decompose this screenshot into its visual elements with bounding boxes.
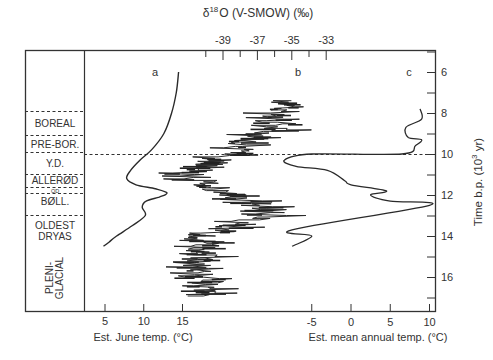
svg-text:8: 8	[441, 107, 447, 119]
bottom-axis-june-temp: 51015	[102, 304, 189, 327]
top-axis-label: δ18O (V-SMOW) (‰)	[203, 5, 314, 20]
svg-text:10: 10	[138, 315, 150, 327]
panel-label-a: a	[152, 66, 159, 78]
svg-text:-33: -33	[318, 34, 334, 46]
svg-text:10: 10	[423, 316, 435, 328]
svg-text:12: 12	[441, 189, 453, 201]
svg-text:5: 5	[387, 316, 393, 328]
bottom-axis-left-label: Est. June temp. (°C)	[93, 331, 192, 343]
svg-text:10: 10	[441, 148, 453, 160]
svg-text:14: 14	[441, 230, 453, 242]
right-axis-label: Time b.p. (103 yr)	[470, 138, 484, 227]
svg-text:5: 5	[102, 315, 108, 327]
top-axis-d18o: -39-37-35-33	[206, 34, 334, 60]
chronozone-label: OLDESTDRYAS	[35, 220, 75, 242]
chronozone-label: BØLL.	[41, 196, 69, 207]
svg-text:16: 16	[441, 271, 453, 283]
chronozone-label: BOREAL	[35, 118, 76, 129]
svg-text:0: 0	[348, 316, 354, 328]
right-axis-time: 6810121416	[427, 52, 453, 298]
chronozone-label: OD	[51, 188, 59, 194]
paleoclimate-chart: BOREALPRE-BOR.Y.D.ALLERØDODBØLL.OLDESTDR…	[0, 0, 493, 360]
chronozone-labels: BOREALPRE-BOR.Y.D.ALLERØDODBØLL.OLDESTDR…	[31, 118, 79, 299]
chronozone-label: PRE-BOR.	[31, 139, 79, 150]
svg-text:-35: -35	[284, 34, 300, 46]
chronozone-label: PLENI-GLACIAL	[44, 256, 65, 299]
svg-text:-37: -37	[249, 34, 265, 46]
curve-june-temp	[104, 72, 179, 246]
svg-text:-5: -5	[307, 316, 317, 328]
bottom-axis-right-label: Est. mean annual temp. (°C)	[309, 331, 448, 343]
svg-text:15: 15	[176, 315, 188, 327]
panel-label-c: c	[406, 66, 412, 78]
chronozone-label: Y.D.	[46, 158, 64, 169]
bottom-axis-mean-annual-temp: -50510	[307, 304, 436, 328]
svg-text:-39: -39	[215, 34, 231, 46]
plot-frame	[26, 51, 436, 312]
chronozone-label: ALLERØD	[32, 175, 79, 186]
svg-text:6: 6	[441, 66, 447, 78]
panel-label-b: b	[295, 66, 301, 78]
